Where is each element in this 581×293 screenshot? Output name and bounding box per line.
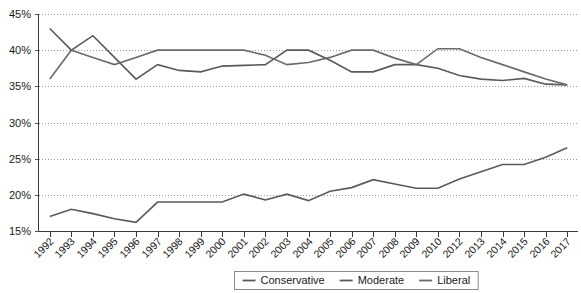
legend-label-moderate: Moderate [358, 274, 404, 286]
y-tick-label: 45% [9, 8, 31, 20]
y-tick-label: 25% [9, 153, 31, 165]
y-tick-label: 40% [9, 44, 31, 56]
y-tick-label: 35% [9, 80, 31, 92]
line-chart: 15%20%25%30%35%40%45% 199219931994199519… [0, 0, 581, 293]
y-tick-label: 20% [9, 189, 31, 201]
chart-canvas: 15%20%25%30%35%40%45% 199219931994199519… [0, 0, 581, 293]
legend-label-liberal: Liberal [437, 274, 470, 286]
y-tick-label: 15% [9, 225, 31, 237]
legend-label-conservative: Conservative [261, 274, 325, 286]
chart-legend: ConservativeModerateLiberal [235, 272, 479, 290]
y-tick-label: 30% [9, 117, 31, 129]
